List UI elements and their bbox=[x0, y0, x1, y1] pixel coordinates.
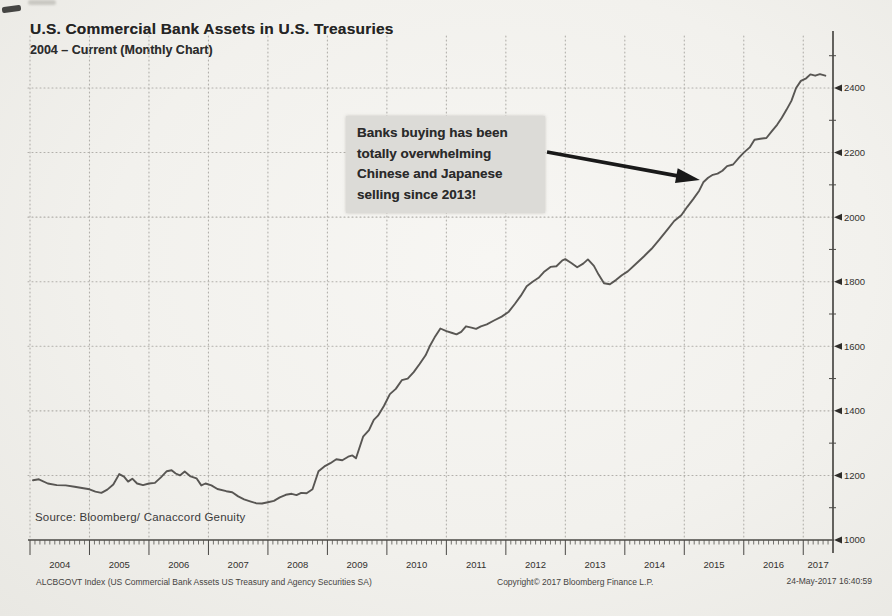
x-tick-label: 2006 bbox=[168, 559, 189, 570]
x-axis: 2004200520062007200820092010201120122013… bbox=[28, 540, 834, 570]
x-tick-label: 2004 bbox=[49, 559, 70, 570]
x-tick-label: 2008 bbox=[287, 559, 308, 570]
y-tick-marker-icon bbox=[834, 85, 842, 92]
y-tick-marker-icon bbox=[834, 472, 842, 479]
source-label: Source: Bloomberg/ Canaccord Genuity bbox=[35, 511, 245, 523]
y-tick-label: 2200 bbox=[844, 147, 865, 158]
arrow-shaft bbox=[547, 152, 680, 176]
x-tick-label: 2016 bbox=[763, 559, 784, 570]
y-tick-marker-icon bbox=[834, 407, 842, 414]
y-tick-marker-icon bbox=[834, 149, 842, 156]
x-tick-label: 2013 bbox=[585, 559, 606, 570]
y-tick-label: 1600 bbox=[844, 341, 865, 352]
x-tick-label: 2017 bbox=[808, 559, 829, 570]
y-tick-label: 1000 bbox=[844, 534, 865, 545]
y-tick-label: 2000 bbox=[844, 212, 865, 223]
x-tick-label: 2014 bbox=[644, 559, 665, 570]
y-tick-marker-icon bbox=[834, 537, 842, 544]
annotation-arrow bbox=[547, 152, 700, 183]
annotation-callout: Banks buying has been totally overwhelmi… bbox=[346, 116, 545, 213]
arrow-head-icon bbox=[675, 168, 700, 183]
chart-svg: 2004200520062007200820092010201120122013… bbox=[0, 0, 892, 616]
x-tick-label: 2009 bbox=[347, 559, 368, 570]
footer-copyright: Copyright© 2017 Bloomberg Finance L.P. bbox=[497, 577, 653, 587]
x-tick-label: 2015 bbox=[703, 559, 724, 570]
gridlines bbox=[28, 36, 833, 540]
x-tick-label: 2011 bbox=[466, 559, 486, 570]
footer-timestamp: 24-May-2017 16:40:59 bbox=[786, 576, 872, 586]
x-tick-label: 2007 bbox=[228, 559, 249, 570]
y-tick-label: 1800 bbox=[844, 276, 865, 287]
x-tick-label: 2010 bbox=[406, 559, 427, 570]
x-tick-label: 2005 bbox=[109, 559, 130, 570]
y-tick-marker-icon bbox=[834, 343, 842, 350]
x-tick-label: 2012 bbox=[525, 559, 546, 570]
footer-ticker-label: ALCBGOVT Index (US Commercial Bank Asset… bbox=[36, 577, 372, 587]
y-tick-label: 1400 bbox=[844, 405, 865, 416]
y-tick-marker-icon bbox=[834, 278, 842, 285]
scanned-chart-page: U.S. Commercial Bank Assets in U.S. Trea… bbox=[0, 0, 892, 616]
y-tick-label: 2400 bbox=[844, 82, 865, 93]
y-axis: 10001200140016001800200022002400 bbox=[829, 31, 865, 553]
y-tick-marker-icon bbox=[834, 214, 842, 221]
y-tick-label: 1200 bbox=[844, 470, 865, 481]
